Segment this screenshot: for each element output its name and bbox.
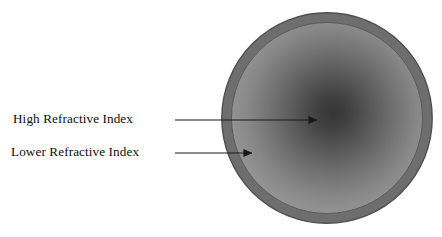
label-lower-refractive-index: Lower Refractive Index [11,145,139,158]
diagram-figure: High Refractive Index Lower Refractive I… [0,0,442,237]
label-high-refractive-index: High Refractive Index [13,112,133,125]
core-graded-index [232,23,423,214]
